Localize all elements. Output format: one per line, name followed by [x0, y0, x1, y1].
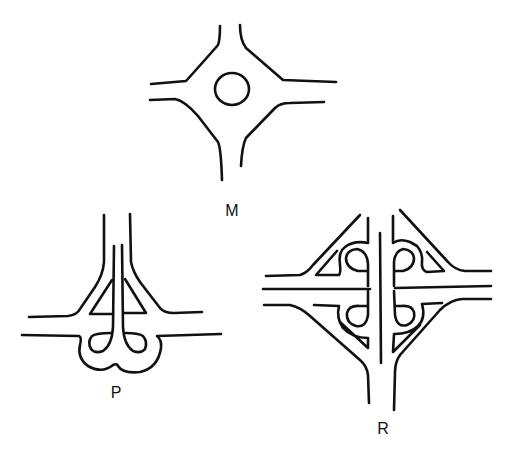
diagram-label-m: M [225, 203, 238, 219]
r-ramp-lower-right [393, 303, 442, 352]
m-central-island [215, 73, 249, 105]
p-inner-loop-right [122, 245, 146, 352]
m-curb-lower-left [150, 99, 222, 180]
r-loop-lower-right [394, 291, 414, 326]
diagram-r-cloverleaf [263, 210, 491, 410]
m-curb-upper-right [240, 25, 336, 82]
p-ramp-triangle-left [90, 280, 113, 314]
r-loop-lower-left [347, 291, 368, 326]
r-vertical-median [380, 233, 381, 363]
m-curb-upper-left [151, 26, 220, 84]
r-ramp-upper-right [393, 216, 444, 272]
p-lower-road-and-outer-loop [22, 334, 221, 372]
p-inner-loop-left [89, 246, 114, 352]
p-outer-curb-left [29, 215, 104, 317]
p-outer-curb-right [130, 214, 202, 313]
r-ramp-upper-left [316, 218, 368, 275]
r-loop-upper-right [394, 249, 414, 286]
diagram-p-trumpet [22, 214, 221, 372]
r-outer-curb-lower-left [264, 305, 369, 403]
diagram-label-r: R [377, 421, 389, 437]
r-loop-upper-left [346, 249, 368, 286]
r-horizontal-median [263, 286, 491, 289]
diagram-label-p: P [111, 385, 122, 401]
r-outer-curb-lower-right [394, 299, 491, 410]
figure-canvas [0, 0, 511, 455]
diagram-m-roundabout [150, 25, 336, 180]
m-curb-lower-right [241, 102, 324, 166]
